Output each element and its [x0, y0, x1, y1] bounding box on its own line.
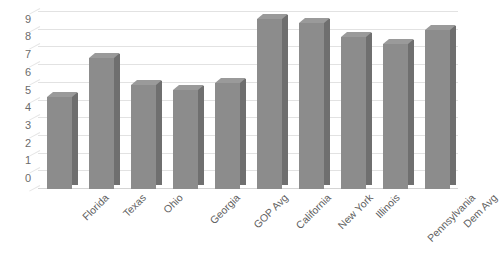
bar-front-face	[383, 44, 408, 189]
bar[interactable]	[47, 97, 72, 189]
x-axis-tick-label: California	[294, 192, 333, 231]
bar-top-face	[383, 39, 414, 44]
bar-side-face	[450, 26, 456, 185]
y-axis-tick-label: 3	[25, 119, 31, 130]
bar-top-face	[173, 85, 204, 90]
bar-top-face	[299, 18, 330, 23]
bar-side-face	[282, 15, 288, 185]
bar[interactable]	[131, 85, 156, 189]
bar-side-face	[324, 19, 330, 185]
y-axis-tick-label: 2	[25, 137, 31, 148]
bar-front-face	[257, 19, 282, 189]
x-axis-tick-label: Texas	[121, 192, 148, 219]
bar-front-face	[89, 58, 114, 189]
bar[interactable]	[173, 90, 198, 189]
bar-side-face	[198, 86, 204, 185]
bar[interactable]	[383, 44, 408, 189]
bar-top-face	[341, 32, 372, 37]
bar-side-face	[114, 54, 120, 185]
bar-side-face	[366, 33, 372, 185]
x-axis-tick-labels: FloridaTexasOhioGeorgiaGOP AvgCalifornia…	[38, 192, 458, 262]
bar-front-face	[341, 37, 366, 189]
y-axis-tick-label: 4	[25, 102, 31, 113]
bar-top-face	[89, 53, 120, 58]
bar[interactable]	[341, 37, 366, 189]
bar-top-face	[47, 92, 78, 97]
bar-front-face	[215, 83, 240, 189]
bar-top-face	[425, 25, 456, 30]
x-axis-tick-label: New York	[336, 192, 375, 231]
bar-side-face	[156, 81, 162, 185]
y-axis-tick-label: 5	[25, 84, 31, 95]
bar-series	[38, 12, 458, 189]
bar-front-face	[47, 97, 72, 189]
x-axis-tick-label: Illinois	[374, 192, 402, 220]
bar[interactable]	[257, 19, 282, 189]
x-axis-tick-label: Ohio	[161, 192, 184, 215]
bar-front-face	[299, 23, 324, 189]
x-axis-tick-label: Florida	[80, 192, 110, 222]
bar[interactable]	[425, 30, 450, 189]
bar-side-face	[408, 40, 414, 185]
bar-front-face	[425, 30, 450, 189]
y-axis-tick-label: 0	[25, 173, 31, 184]
bar-top-face	[131, 80, 162, 85]
y-axis-tick-label: 7	[25, 49, 31, 60]
y-axis-tick-label: 9	[25, 13, 31, 24]
bar-top-face	[215, 78, 246, 83]
plot-area: 0123456789	[38, 12, 458, 189]
bar-front-face	[173, 90, 198, 189]
bar-front-face	[131, 85, 156, 189]
x-axis-tick-label: GOP Avg	[252, 192, 290, 230]
bar-side-face	[240, 79, 246, 185]
y-axis-tick-label: 1	[25, 155, 31, 166]
y-axis-tick-label: 6	[25, 66, 31, 77]
bar-side-face	[72, 93, 78, 185]
y-axis-tick-label: 8	[25, 31, 31, 42]
bar[interactable]	[299, 23, 324, 189]
x-axis-tick-label: Georgia	[208, 192, 242, 226]
bar[interactable]	[215, 83, 240, 189]
bar[interactable]	[89, 58, 114, 189]
